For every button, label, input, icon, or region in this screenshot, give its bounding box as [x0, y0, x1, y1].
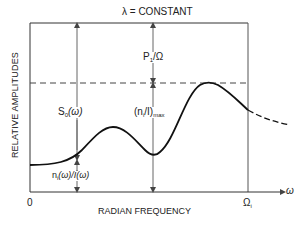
response-curve-extrapolated	[248, 110, 290, 125]
omega-i-sub: i	[250, 203, 251, 209]
p1-label: P1/Ω	[143, 52, 163, 63]
s0-base: S	[58, 106, 65, 117]
ni-label: ni(ω)/I(ω)	[52, 171, 89, 181]
response-curve	[30, 83, 248, 165]
x-axis-label: RADIAN FREQUENCY	[98, 207, 191, 216]
s0-arg: (ω)	[68, 106, 82, 117]
omega-axis-symbol: ω	[286, 186, 294, 196]
p1-base: P	[143, 51, 150, 62]
p1-rest: /Ω	[153, 51, 163, 62]
omega-i-label: Ωi	[243, 198, 252, 209]
nmax-sub2: max	[153, 112, 164, 118]
nmax-open: (n	[134, 106, 143, 117]
y-axis-label: RELATIVE AMPLITUDES	[10, 50, 20, 160]
nmax-mid: /I)	[144, 106, 153, 117]
origin-label: 0	[27, 198, 33, 208]
s0-label: S0(ω)	[58, 107, 82, 118]
ni-rest: (ω)/I(ω)	[58, 170, 89, 180]
title: λ = CONSTANT	[122, 7, 193, 17]
nmax-label: (ni/I)max	[134, 107, 164, 118]
